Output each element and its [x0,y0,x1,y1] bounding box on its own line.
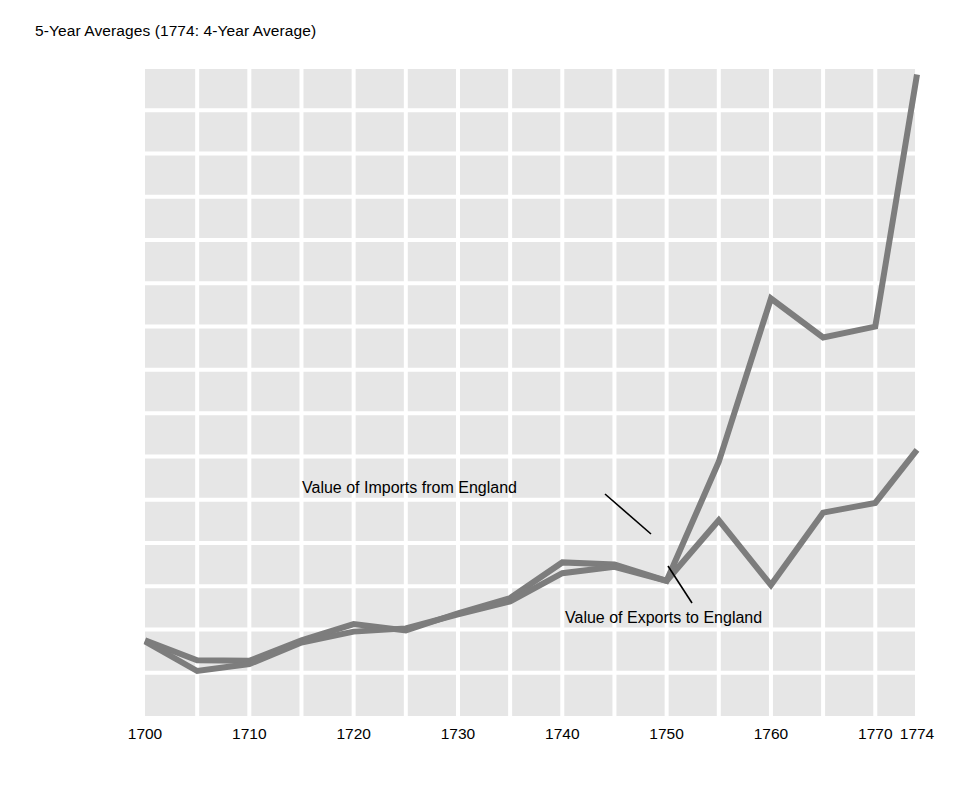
x-axis-tick-label: 1700 [128,726,162,742]
x-axis-tick-label: 1710 [232,726,266,742]
x-axis-tick-label: 1760 [754,726,788,742]
chart-figure: 5-Year Averages (1774: 4-Year Average) £… [0,0,973,801]
x-axis-tick-label: 1750 [649,726,683,742]
x-axis-tick-labels: 170017101720173017401750176017701774 [0,0,973,801]
exports-annotation: Value of Exports to England [565,610,762,626]
x-axis-tick-label: 1770 [858,726,892,742]
x-axis-tick-label: 1720 [336,726,370,742]
x-axis-tick-label: 1740 [545,726,579,742]
x-axis-tick-label: 1774 [900,726,934,742]
x-axis-tick-label: 1730 [441,726,475,742]
imports-annotation: Value of Imports from England [302,480,517,496]
